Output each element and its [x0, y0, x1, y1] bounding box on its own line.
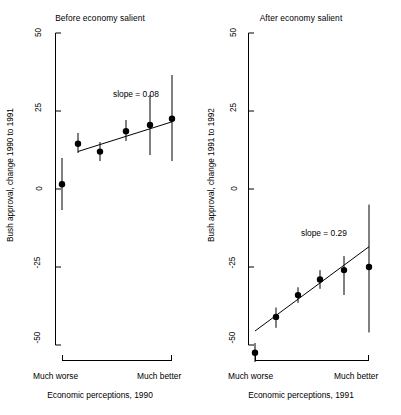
y-axis	[56, 33, 62, 345]
data-points	[252, 264, 372, 356]
y-axis	[249, 33, 255, 345]
plot-area-after	[201, 0, 401, 415]
panel-after-economy-salient: After economy salient Bush approval, cha…	[201, 0, 401, 415]
figure-root: Before economy salient Bush approval, ch…	[0, 0, 401, 415]
regression-line	[78, 122, 172, 152]
error-bars	[255, 205, 369, 362]
plot-area-before	[0, 0, 200, 415]
regression-line	[255, 247, 369, 331]
x-axis-bracket	[255, 355, 369, 361]
panel-before-economy-salient: Before economy salient Bush approval, ch…	[0, 0, 200, 415]
x-axis-bracket	[62, 355, 172, 361]
